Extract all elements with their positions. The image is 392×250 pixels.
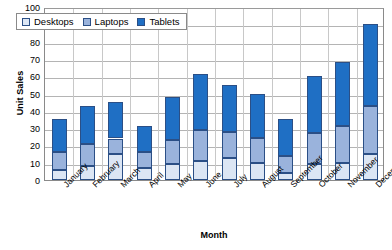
x-axis-tick-labels: JanuaryFebruaryMarchAprilMayJuneJulyAugu… [44, 183, 384, 231]
y-axis-tick-label: 60 [18, 73, 40, 82]
bar-segment[interactable] [335, 62, 350, 126]
bar-segment[interactable] [222, 132, 237, 158]
bar-group[interactable] [108, 8, 123, 180]
legend-label: Tablets [149, 17, 179, 27]
bar-group[interactable] [363, 8, 378, 180]
bar-segment[interactable] [52, 152, 67, 169]
x-axis-tick-label: January [62, 183, 68, 189]
y-axis-tick-label: 80 [18, 39, 40, 48]
x-axis-tick-label: December [374, 183, 380, 189]
x-axis-tick-label: August [260, 183, 266, 189]
x-axis-tick-label: July [232, 183, 238, 189]
y-axis-tick-labels: 0102030405060708090100 [18, 8, 40, 181]
bar-group[interactable] [335, 8, 350, 180]
x-axis-tick-label: March [119, 183, 125, 189]
bar-group[interactable] [193, 8, 208, 180]
bar-segment[interactable] [335, 126, 350, 162]
x-axis-title: Month [44, 230, 384, 240]
bar-segment[interactable] [80, 106, 95, 144]
bar-segment[interactable] [137, 152, 152, 168]
bar-segment[interactable] [108, 139, 123, 155]
x-axis-tick-label: September [289, 183, 295, 189]
bar-group[interactable] [222, 8, 237, 180]
legend-item[interactable]: Tablets [137, 17, 179, 27]
bar-segment[interactable] [165, 164, 180, 180]
bar-group[interactable] [165, 8, 180, 180]
legend-swatch-icon [137, 18, 145, 26]
bar-segment[interactable] [363, 106, 378, 154]
bar-group[interactable] [80, 8, 95, 180]
legend-label: Laptops [95, 17, 129, 27]
bar-segment[interactable] [193, 74, 208, 129]
x-axis-tick-label: June [204, 183, 210, 189]
bar-segment[interactable] [165, 140, 180, 164]
y-axis-tick-label: 40 [18, 108, 40, 117]
bar-segment[interactable] [307, 76, 322, 133]
bar-segment[interactable] [363, 24, 378, 105]
bar-segment[interactable] [222, 158, 237, 180]
y-axis-tick-label: 0 [18, 177, 40, 186]
bar-group[interactable] [250, 8, 265, 180]
x-axis-tick-label: November [346, 183, 352, 189]
bar-segment[interactable] [137, 126, 152, 152]
y-axis-tick-label: 10 [18, 160, 40, 169]
legend-label: Desktops [34, 17, 74, 27]
bar-segment[interactable] [222, 85, 237, 132]
bar-segment[interactable] [250, 138, 265, 162]
y-axis-tick-label: 20 [18, 142, 40, 151]
y-axis-tick-label: 70 [18, 56, 40, 65]
y-axis-tick-label: 100 [18, 4, 40, 13]
x-axis-tick-label: April [147, 183, 153, 189]
bar-segment[interactable] [165, 97, 180, 140]
legend-swatch-icon [83, 18, 91, 26]
x-axis-tick-label: February [91, 183, 97, 189]
legend-item[interactable]: Desktops [22, 17, 74, 27]
bar-segment[interactable] [52, 119, 67, 152]
unit-sales-stacked-bar-chart: Unit Sales 0102030405060708090100 Deskto… [0, 0, 392, 250]
x-axis-tick-label: October [317, 183, 323, 189]
plot-area [44, 8, 384, 181]
bar-segment[interactable] [193, 161, 208, 180]
chart-legend: DesktopsLaptopsTablets [16, 13, 187, 30]
bar-segment[interactable] [108, 102, 123, 138]
legend-item[interactable]: Laptops [83, 17, 129, 27]
bar-segment[interactable] [250, 94, 265, 139]
bar-segment[interactable] [193, 130, 208, 161]
bar-group[interactable] [278, 8, 293, 180]
bar-group[interactable] [52, 8, 67, 180]
legend-swatch-icon [22, 18, 30, 26]
bar-group[interactable] [137, 8, 152, 180]
y-axis-tick-label: 50 [18, 91, 40, 100]
bar-segment[interactable] [278, 119, 293, 155]
x-axis-tick-label: May [176, 183, 182, 189]
y-axis-tick-label: 30 [18, 125, 40, 134]
bars-layer [45, 9, 383, 180]
